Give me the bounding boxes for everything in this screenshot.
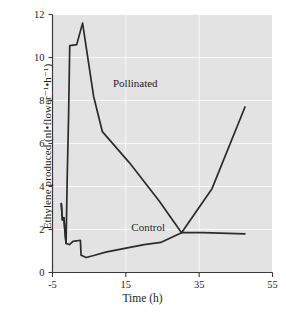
- y-tick-label: 0: [11, 268, 45, 278]
- x-tick-label: 55: [253, 280, 286, 290]
- series-label-control: Control: [131, 221, 165, 233]
- x-tick-label: 15: [106, 280, 146, 290]
- y-tick-label: 4: [11, 182, 45, 192]
- x-tick-label: -5: [33, 280, 73, 290]
- series-label-pollinated: Pollinated: [113, 77, 158, 89]
- x-tick-label: 35: [179, 280, 219, 290]
- y-tick-label: 12: [11, 10, 45, 20]
- y-tick-label: 6: [11, 139, 45, 149]
- y-tick-label: 10: [11, 53, 45, 63]
- y-tick-label: 8: [11, 96, 45, 106]
- x-axis-title: Time (h): [0, 292, 285, 304]
- y-tick-label: 2: [11, 225, 45, 235]
- chart-figure: Ethylene produced (nl•flower⁻¹•h⁻¹) 0246…: [0, 0, 285, 314]
